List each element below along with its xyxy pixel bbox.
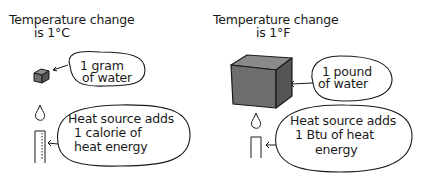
left-heat-line3: heat energy (74, 140, 148, 153)
right-heat-line2: 1 Btu of heat (295, 128, 374, 141)
left-title-line1: Temperature change (9, 13, 135, 26)
right-heat-line1: Heat source adds (290, 114, 396, 127)
candle-icon (251, 113, 261, 158)
left-title-line2: is 1°C (34, 26, 70, 39)
left-heat-line2: 1 calorie of (74, 126, 142, 139)
large-cube-icon (231, 55, 292, 108)
right-title-line2: is 1°F (256, 26, 290, 39)
left-heat-line1: Heat source adds (68, 112, 174, 125)
candle-icon (35, 105, 45, 163)
right-mass-line2: of water (318, 77, 368, 90)
left-mass-line2: of water (82, 71, 132, 84)
right-heat-line3: energy (315, 143, 357, 156)
small-cube-icon (34, 69, 49, 83)
